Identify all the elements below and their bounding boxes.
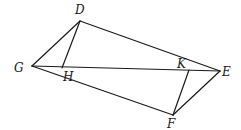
segment-GF bbox=[32, 66, 173, 115]
geometry-figure: D G H K E F bbox=[0, 0, 241, 130]
label-E: E bbox=[221, 65, 231, 79]
label-G: G bbox=[14, 61, 24, 75]
label-D: D bbox=[74, 3, 85, 17]
segment-GE bbox=[32, 66, 220, 71]
label-H: H bbox=[62, 70, 74, 84]
segment-DE bbox=[80, 21, 220, 71]
label-K: K bbox=[176, 57, 187, 71]
segment-GD bbox=[32, 21, 80, 66]
figure-canvas: D G H K E F bbox=[0, 0, 241, 130]
label-F: F bbox=[166, 117, 176, 130]
segment-FE bbox=[173, 71, 220, 115]
segment-DH bbox=[62, 21, 80, 68]
